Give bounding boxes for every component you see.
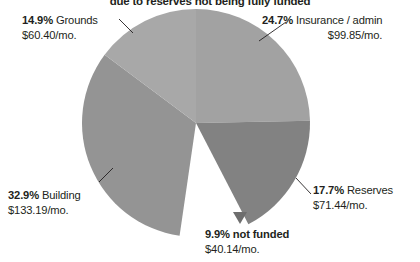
pie-chart-figure: due to reserves not being fully funded 1…: [0, 0, 420, 262]
slice-name-insurance: Insurance / admin: [293, 14, 382, 26]
slice-percent-grounds: 14.9%: [22, 14, 53, 26]
slice-label-insurance: 24.7% Insurance / admin $99.85/mo.: [262, 13, 382, 42]
slice-percent-notfunded: 9.9%: [205, 228, 230, 240]
slice-percent-insurance: 24.7%: [262, 14, 293, 26]
slice-label-grounds: 14.9% Grounds $60.40/mo.: [22, 13, 98, 42]
pie-slices-group: [82, 9, 310, 236]
slice-label-reserves: 17.7% Reserves $71.44/mo.: [313, 183, 393, 212]
slice-amount-notfunded: $40.14/mo.: [205, 242, 289, 257]
slice-name-notfunded: not funded: [230, 228, 289, 240]
slice-name-grounds: Grounds: [53, 14, 98, 26]
slice-amount-reserves: $71.44/mo.: [313, 198, 393, 213]
slice-amount-insurance: $99.85/mo.: [262, 28, 382, 43]
pie-slice-reserves[interactable]: [196, 121, 310, 224]
slice-percent-building: 32.9%: [8, 189, 39, 201]
slice-label-building: 32.9% Building $133.19/mo.: [8, 188, 81, 217]
slice-name-building: Building: [39, 189, 81, 201]
leader-line-grounds: [119, 19, 133, 33]
leader-arrow-notfunded: [233, 212, 247, 224]
leader-line-reserves: [296, 178, 311, 194]
slice-amount-building: $133.19/mo.: [8, 203, 81, 218]
slice-percent-reserves: 17.7%: [313, 184, 344, 196]
slice-amount-grounds: $60.40/mo.: [22, 28, 98, 43]
slice-name-reserves: Reserves: [344, 184, 393, 196]
slice-label-notfunded: 9.9% not funded $40.14/mo.: [205, 227, 289, 256]
